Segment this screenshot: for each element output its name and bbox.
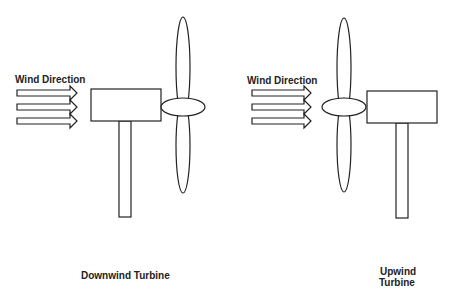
- upwind-turbine: [252, 18, 437, 218]
- wind-direction-label-upwind: Wind Direction: [247, 75, 317, 86]
- upwind-turbine-caption-line2: Turbine: [379, 277, 415, 288]
- nacelle-upwind: [367, 91, 437, 123]
- tower-upwind: [396, 123, 408, 218]
- upwind-turbine-caption-line1: Upwind: [380, 266, 416, 277]
- nacelle-downwind: [91, 89, 161, 121]
- downwind-turbine: [17, 17, 205, 217]
- wind-arrows-upwind: [252, 86, 311, 128]
- hub-upwind: [322, 98, 366, 116]
- wind-arrows-downwind: [17, 86, 77, 128]
- downwind-turbine-caption: Downwind Turbine: [81, 270, 170, 281]
- tower-downwind: [119, 121, 131, 217]
- hub-downwind: [161, 98, 205, 116]
- wind-direction-label-downwind: Wind Direction: [15, 74, 85, 85]
- turbine-diagram: [0, 0, 452, 296]
